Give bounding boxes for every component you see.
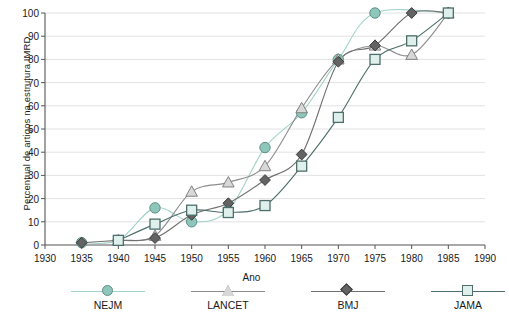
legend-label: BMJ [293, 299, 403, 311]
data-point-lancet [223, 177, 235, 187]
data-point-jama [223, 208, 233, 218]
data-point-bmj [150, 233, 161, 244]
legend-item-bmj[interactable]: BMJ [293, 284, 403, 311]
triangle-marker [222, 285, 234, 296]
legend-item-lancet[interactable]: LANCET [173, 284, 283, 311]
legend-item-jama[interactable]: JAMA [413, 284, 509, 311]
legend-label: NEJM [53, 299, 163, 311]
data-point-bmj [406, 8, 417, 19]
circle-marker [102, 285, 113, 296]
data-point-jama [370, 54, 380, 64]
legend-label: LANCET [173, 299, 283, 311]
data-point-lancet [186, 186, 198, 196]
data-point-jama [333, 112, 343, 122]
legend-item-nejm[interactable]: NEJM [53, 284, 163, 311]
data-point-jama [150, 219, 160, 229]
data-point-jama [113, 235, 123, 245]
data-point-bmj [260, 175, 271, 186]
legend-sample [53, 284, 163, 298]
data-point-bmj [296, 149, 307, 160]
diamond-marker [340, 283, 353, 296]
chart-legend: NEJMLANCETBMJJAMA [0, 284, 503, 323]
data-point-jama [260, 201, 270, 211]
legend-sample [293, 284, 403, 298]
legend-label: JAMA [413, 299, 509, 311]
data-point-nejm [370, 8, 380, 18]
legend-sample [173, 284, 283, 298]
legend-sample [413, 284, 509, 298]
data-point-nejm [260, 142, 270, 152]
data-point-jama [407, 36, 417, 46]
data-point-jama [297, 161, 307, 171]
data-point-lancet [406, 49, 418, 59]
series-line-jama [118, 13, 448, 240]
series-line-lancet [118, 13, 448, 241]
data-point-nejm [150, 203, 160, 213]
square-marker [462, 285, 473, 296]
data-point-jama [187, 205, 197, 215]
data-point-jama [443, 8, 453, 18]
